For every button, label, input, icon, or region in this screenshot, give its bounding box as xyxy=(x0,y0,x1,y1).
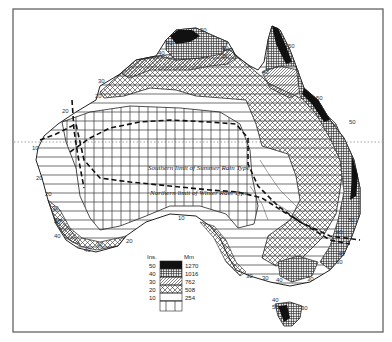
summer-limit-label: Southern limit of Summer Rain Type xyxy=(148,164,250,172)
contour-label: 50 xyxy=(288,43,295,49)
contour-label: 40 xyxy=(54,219,61,225)
contour-label: 20 xyxy=(95,93,102,99)
contour-label: 10 xyxy=(32,145,39,151)
contour-label: 40 xyxy=(84,247,91,253)
contour-label: 50 xyxy=(349,119,356,125)
contour-label: 50 xyxy=(272,304,279,310)
legend-mm-254: 254 xyxy=(185,295,196,301)
contour-label: 40 xyxy=(54,233,61,239)
contour-label: 40 xyxy=(338,251,345,257)
contour-label: 20 xyxy=(62,108,69,114)
rainfall-map: Southern limit of Summer Rain Type North… xyxy=(0,0,392,342)
contour-label: 30 xyxy=(336,259,343,265)
contour-label: 20 xyxy=(126,238,133,244)
contour-label: 30 xyxy=(96,241,103,247)
legend-swatch-10 xyxy=(160,293,182,301)
contour-label: 40 xyxy=(272,297,279,303)
contour-label: 10 xyxy=(178,215,185,221)
contour-label: 30 xyxy=(52,205,59,211)
contour-label: 50 xyxy=(222,45,229,51)
legend-swatch-40 xyxy=(160,269,182,277)
legend-mm-1016: 1016 xyxy=(185,271,199,277)
legend-in-30: 30 xyxy=(149,279,156,285)
legend-in-20: 20 xyxy=(149,287,156,293)
contour-label: 50 xyxy=(200,27,207,33)
contour-label: 40 xyxy=(158,50,165,56)
legend-in-40: 40 xyxy=(149,271,156,277)
contour-label: 50 xyxy=(222,53,229,59)
legend-swatch-50 xyxy=(160,261,182,269)
legend-swatch-30 xyxy=(160,277,182,285)
contour-label: 20 xyxy=(36,175,43,181)
contour-label: 30 xyxy=(301,305,308,311)
legend-header-inches: Ins. xyxy=(147,254,157,260)
contour-label: 50 xyxy=(348,217,355,223)
contour-label: 40 xyxy=(336,229,343,235)
contour-label: 40 xyxy=(276,277,283,283)
legend-in-50: 50 xyxy=(149,263,156,269)
contour-label: 30 xyxy=(246,273,253,279)
contour-label: 40 xyxy=(262,69,269,75)
contour-label: 50 xyxy=(316,95,323,101)
contour-label: 30 xyxy=(262,275,269,281)
legend-mm-762: 762 xyxy=(185,279,196,285)
contour-label: 30 xyxy=(307,276,314,282)
legend-swatch-20 xyxy=(160,285,182,293)
legend-mm-1270: 1270 xyxy=(185,263,199,269)
legend-in-10: 10 xyxy=(149,295,156,301)
contour-label: 40 xyxy=(166,40,173,46)
contour-label: 30 xyxy=(98,78,105,84)
legend: Ins. Mm 50 40 30 20 10 1270 1016 762 508… xyxy=(147,254,199,311)
legend-mm-508: 508 xyxy=(185,287,196,293)
legend-swatch-under-10 xyxy=(160,301,182,311)
legend-header-mm: Mm xyxy=(184,254,194,260)
contour-label: 20 xyxy=(45,191,52,197)
winter-limit-label: Northern limit of Winter Rain Type xyxy=(149,189,248,197)
